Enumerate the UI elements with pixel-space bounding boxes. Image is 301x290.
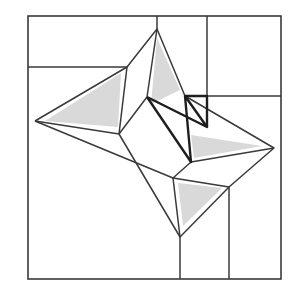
bottom-triangle xyxy=(178,183,222,226)
geometric-diagram xyxy=(0,0,301,290)
left-to-bottom xyxy=(35,121,180,237)
left-triangle xyxy=(45,73,121,127)
right-triangle xyxy=(191,135,262,158)
inner-right xyxy=(173,148,274,187)
outer-shape xyxy=(35,29,274,237)
